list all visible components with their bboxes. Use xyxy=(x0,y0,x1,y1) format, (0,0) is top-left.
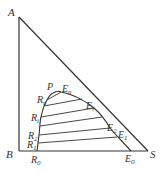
label-P: P xyxy=(46,81,53,92)
tie-line-R1-E1 xyxy=(38,137,117,143)
ternary-diagram: A B S P R0 R1 R2 Ri Rn En Ei E2 E1 E0 xyxy=(0,0,164,173)
tie-line-3 xyxy=(40,117,102,126)
label-E1: E1 xyxy=(117,129,128,142)
label-Ei: Ei xyxy=(85,100,94,113)
label-En: En xyxy=(61,83,72,96)
label-B: B xyxy=(6,148,13,160)
label-E2: E2 xyxy=(106,122,117,135)
label-R0: R0 xyxy=(30,154,41,167)
label-Ri: Ri xyxy=(30,112,39,125)
tie-line-5 xyxy=(44,99,82,106)
label-Rn: Rn xyxy=(36,94,47,107)
label-S: S xyxy=(150,148,156,160)
label-A: A xyxy=(7,6,15,18)
label-E0: E0 xyxy=(124,153,135,166)
tie-line-R2-E2 xyxy=(39,128,110,135)
